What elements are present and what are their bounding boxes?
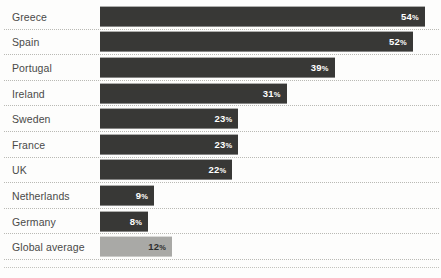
bar-track: 39% (100, 58, 437, 78)
bar: 23% (100, 109, 238, 129)
bar: 22% (100, 160, 232, 180)
percent-sign: % (400, 38, 407, 47)
chart-row: France23% (0, 132, 441, 158)
bar-value-label: 9% (136, 190, 148, 201)
percent-sign: % (274, 89, 281, 98)
bar-value-number: 23 (215, 139, 226, 150)
bar: 9% (100, 186, 154, 206)
chart-row: Portugal39% (0, 55, 441, 81)
bar-value-label: 22% (209, 164, 227, 175)
bar-track: 9% (100, 186, 437, 206)
bar-chart: Greece54%Spain52%Portugal39%Ireland31%Sw… (0, 0, 441, 278)
row-rule (4, 258, 439, 260)
percent-sign: % (220, 166, 227, 175)
bar-value-label: 23% (215, 113, 233, 124)
category-label: Netherlands (12, 189, 70, 201)
bar: 8% (100, 211, 148, 231)
percent-sign: % (141, 192, 148, 201)
category-label: Sweden (12, 113, 51, 125)
bar-value-number: 22 (209, 164, 220, 175)
chart-row: Netherlands9% (0, 183, 441, 209)
bar-value-label: 39% (311, 62, 329, 73)
chart-row: Spain52% (0, 30, 441, 56)
category-label: Greece (12, 10, 47, 22)
percent-sign: % (159, 243, 166, 252)
bar-value-label: 12% (148, 241, 166, 252)
bar-track: 8% (100, 211, 437, 231)
chart-rows: Greece54%Spain52%Portugal39%Ireland31%Sw… (0, 4, 441, 260)
percent-sign: % (412, 13, 419, 22)
bar-value-label: 8% (130, 215, 142, 226)
category-label: Spain (12, 36, 39, 48)
chart-row: Germany8% (0, 209, 441, 235)
bar: 39% (100, 58, 335, 78)
bar-value-label: 23% (215, 139, 233, 150)
category-label: Portugal (12, 62, 52, 74)
bar-value-number: 39 (311, 62, 322, 73)
category-label: France (12, 138, 45, 150)
bar-track: 52% (100, 32, 437, 52)
bar-track: 31% (100, 83, 437, 103)
category-label: Ireland (12, 87, 45, 99)
percent-sign: % (226, 141, 233, 150)
category-label: UK (12, 164, 27, 176)
percent-sign: % (135, 217, 142, 226)
percent-sign: % (322, 64, 329, 73)
chart-row: UK22% (0, 158, 441, 184)
chart-row: Sweden23% (0, 106, 441, 132)
bar-value-label: 52% (389, 36, 407, 47)
bar-value-number: 52 (389, 36, 400, 47)
bar: 31% (100, 83, 287, 103)
bar: 54% (100, 6, 425, 26)
bar: 23% (100, 134, 238, 154)
bar-value-label: 54% (401, 11, 419, 22)
bar-value-label: 31% (263, 87, 281, 98)
bar-value-number: 23 (215, 113, 226, 124)
bar: 52% (100, 32, 413, 52)
bar-value-number: 12 (148, 241, 159, 252)
bar-value-number: 31 (263, 87, 274, 98)
chart-row: Greece54% (0, 4, 441, 30)
category-label: Germany (12, 215, 56, 227)
bar-track: 12% (100, 237, 437, 257)
bar-track: 54% (100, 6, 437, 26)
chart-bottom-rule (4, 266, 439, 268)
bar-track: 23% (100, 109, 437, 129)
bar-track: 22% (100, 160, 437, 180)
category-label: Global average (12, 241, 85, 253)
bar-track: 23% (100, 134, 437, 154)
chart-row: Ireland31% (0, 81, 441, 107)
percent-sign: % (226, 115, 233, 124)
bar: 12% (100, 237, 172, 257)
chart-row: Global average12% (0, 234, 441, 260)
bar-value-number: 54 (401, 11, 412, 22)
